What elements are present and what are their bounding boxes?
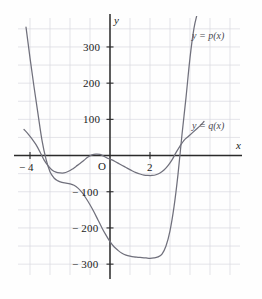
origin-label: O (98, 161, 106, 172)
curve-lines (24, 11, 204, 259)
y-tick-label-200: 200 (83, 78, 100, 89)
axis-lines (14, 14, 242, 279)
coordinate-plane (0, 0, 262, 299)
graph-figure: 300 200 100 − 100 − 200 − 300 − 4 2 x y … (0, 0, 262, 299)
x-tick-label-2: 2 (147, 162, 153, 173)
curve-label-q: y = q(x) (192, 121, 224, 131)
y-axis-label: y (114, 15, 119, 26)
curve-label-p: y = p(x) (192, 31, 224, 41)
y-tick-label-neg100: − 100 (72, 187, 98, 198)
y-tick-label-300: 300 (83, 42, 100, 53)
y-tick-label-neg200: − 200 (72, 223, 98, 234)
y-tick-label-neg300: − 300 (72, 259, 98, 270)
curve-q (24, 122, 204, 176)
x-tick-label-neg4: − 4 (19, 162, 33, 173)
x-axis-label: x (236, 140, 241, 151)
grid-lines (18, 18, 240, 275)
curve-p (26, 11, 198, 259)
y-tick-label-100: 100 (83, 114, 100, 125)
